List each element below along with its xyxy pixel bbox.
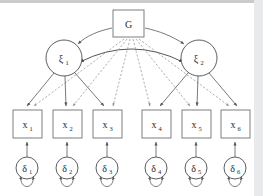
d5-subscript: 5	[198, 168, 201, 175]
path-diagram: G ξ 1 ξ 2 x 1 x 2 x 3	[0, 0, 263, 196]
edge-xi1-xi2-covariance	[80, 49, 183, 62]
node-indicator-x5[interactable]: x 5	[182, 110, 211, 138]
xi1-subscript: 1	[65, 59, 68, 66]
d5-circle[interactable]	[185, 157, 207, 179]
x3-box[interactable]	[93, 110, 122, 138]
d2-subscript: 2	[69, 168, 72, 175]
edge-xi2-to-x5	[197, 76, 198, 106]
xi2-label: ξ	[194, 53, 199, 65]
x3-label: x	[103, 119, 108, 130]
x3-subscript: 3	[109, 125, 112, 132]
d4-label: δ	[151, 163, 156, 174]
node-general-factor[interactable]: G	[113, 10, 144, 37]
edge-g-to-x2	[73, 39, 127, 106]
x1-box[interactable]	[13, 110, 42, 138]
edge-group-specific-to-indicators	[27, 73, 237, 106]
node-error-d4[interactable]: δ 4	[145, 157, 167, 179]
edge-g-to-x5	[136, 39, 190, 106]
general-factor-label: G	[125, 19, 132, 30]
d3-subscript: 3	[109, 168, 112, 175]
edge-xi2-to-x6	[209, 73, 237, 106]
d1-circle[interactable]	[16, 157, 38, 179]
x4-box[interactable]	[142, 110, 171, 138]
xi1-circle[interactable]	[46, 40, 82, 76]
edge-group-specific-covariance	[80, 49, 183, 62]
node-indicator-x4[interactable]: x 4	[142, 110, 171, 138]
node-error-d3[interactable]: δ 3	[96, 157, 118, 179]
xi1-label: ξ	[59, 53, 64, 65]
edge-xi1-to-x2	[65, 76, 66, 106]
node-indicator-x6[interactable]: x 6	[221, 110, 250, 138]
xi2-circle[interactable]	[181, 40, 217, 76]
d4-circle[interactable]	[145, 157, 167, 179]
node-error-d1[interactable]: δ 1	[16, 157, 38, 179]
node-error-d5[interactable]: δ 5	[185, 157, 207, 179]
node-indicator-x1[interactable]: x 1	[13, 110, 42, 138]
x2-label: x	[63, 119, 68, 130]
x1-subscript: 1	[29, 125, 32, 132]
d3-circle[interactable]	[96, 157, 118, 179]
edge-xi2-to-x4	[160, 73, 188, 106]
d3-label: δ	[102, 163, 107, 174]
node-specific-factor-xi1[interactable]: ξ 1	[46, 40, 82, 76]
xi2-subscript: 2	[200, 59, 203, 66]
x2-subscript: 2	[69, 125, 72, 132]
d5-label: δ	[191, 163, 196, 174]
edge-g-to-xi2	[145, 28, 184, 44]
x5-box[interactable]	[182, 110, 211, 138]
d6-circle[interactable]	[224, 157, 246, 179]
x2-box[interactable]	[53, 110, 82, 138]
d1-subscript: 1	[29, 168, 32, 175]
edge-group-error-variances	[21, 176, 241, 187]
node-specific-factor-xi2[interactable]: ξ 2	[181, 40, 217, 76]
edge-g-to-xi1	[78, 28, 112, 44]
edge-xi1-to-x3	[75, 73, 104, 106]
edge-group-error-to-indicators	[27, 142, 235, 157]
d6-label: δ	[230, 163, 235, 174]
d1-label: δ	[22, 163, 27, 174]
node-indicator-x3[interactable]: x 3	[93, 110, 122, 138]
node-error-d6[interactable]: δ 6	[224, 157, 246, 179]
x4-label: x	[152, 119, 157, 130]
node-error-d2[interactable]: δ 2	[56, 157, 78, 179]
node-indicator-x2[interactable]: x 2	[53, 110, 82, 138]
d2-circle[interactable]	[56, 157, 78, 179]
x1-label: x	[23, 119, 28, 130]
x6-label: x	[231, 119, 236, 130]
x5-label: x	[192, 119, 197, 130]
d2-label: δ	[62, 163, 67, 174]
diagram-canvas: G ξ 1 ξ 2 x 1 x 2 x 3	[0, 0, 263, 196]
x6-box[interactable]	[221, 110, 250, 138]
x5-subscript: 5	[198, 125, 201, 132]
